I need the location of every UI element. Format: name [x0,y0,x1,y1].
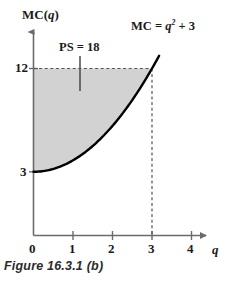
curve-equation-suffix: + 3 [175,19,195,33]
x-tick-label-0: 0 [29,242,36,255]
x-tick-label-3: 3 [148,242,155,255]
curve-equation-prefix: MC = [131,19,165,33]
x-axis-title: q [212,243,219,256]
x-tick-label-2: 2 [108,242,115,255]
figure-caption: Figure 16.3.1 (b) [4,259,103,273]
y-tick-label-3: 3 [20,165,27,178]
producer-surplus-label: PS = 18 [59,41,99,54]
y-axis-title-text: MC(q) [22,7,59,22]
curve-equation-label: MC = q2 + 3 [131,20,195,33]
y-tick-label-12: 12 [15,61,28,74]
x-tick-label-4: 4 [187,242,194,255]
producer-surplus-shaded-region [34,69,153,172]
figure-container: MC(q) q 12 3 0 1 2 3 4 MC = q2 + 3 PS = … [0,0,228,285]
x-tick-label-1: 1 [69,242,76,255]
y-axis-title: MC(q) [22,8,59,21]
